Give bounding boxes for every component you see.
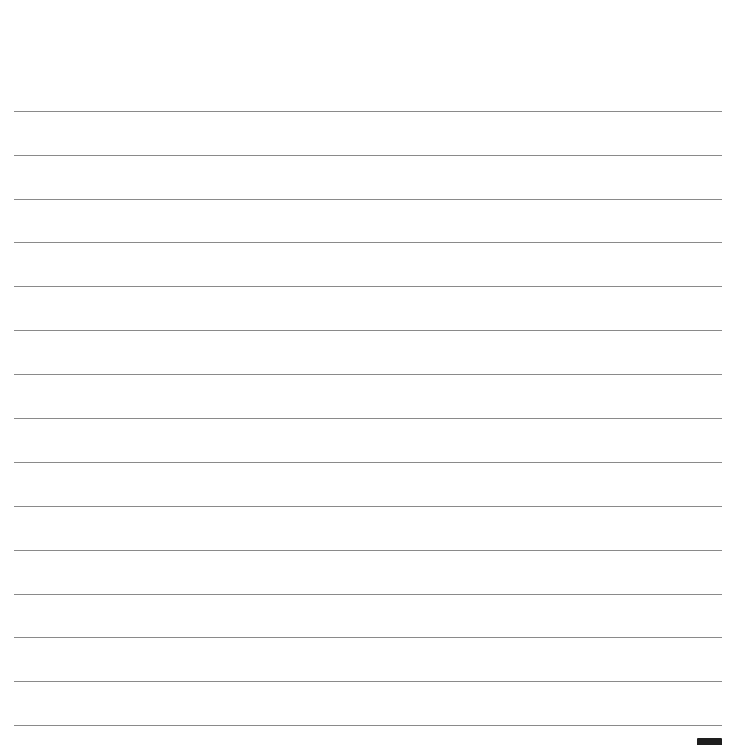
ruled-line — [14, 374, 722, 375]
corner-tab-marker — [697, 738, 722, 745]
ruled-line — [14, 594, 722, 595]
ruled-line — [14, 330, 722, 331]
ruled-line — [14, 418, 722, 419]
ruled-line — [14, 155, 722, 156]
ruled-line — [14, 242, 722, 243]
ruled-line — [14, 725, 722, 726]
ruled-line — [14, 199, 722, 200]
ruled-line — [14, 681, 722, 682]
ruled-line — [14, 506, 722, 507]
ruled-line — [14, 286, 722, 287]
ruled-line — [14, 462, 722, 463]
lined-page — [0, 0, 738, 745]
ruled-line — [14, 111, 722, 112]
ruled-line — [14, 637, 722, 638]
ruled-line — [14, 550, 722, 551]
